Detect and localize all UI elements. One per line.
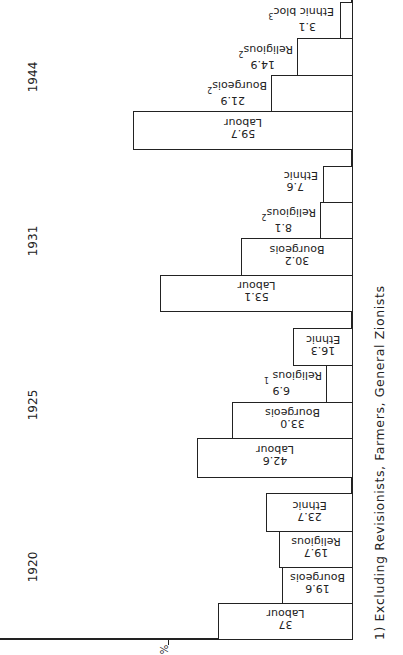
category-1931-labour: Labour bbox=[160, 280, 353, 291]
footnote: 1) Excluding Revisionists, Farmers, Gene… bbox=[372, 286, 387, 641]
bar-label-1925-bourgeois: 33.0 Bourgeois bbox=[232, 407, 353, 429]
category-1944-bourgeois: Bourgeois2 bbox=[185, 80, 267, 95]
bar-label-1920-ethnic: 23.7 Ethnic bbox=[266, 500, 353, 522]
bar-label-1920-religious: 19.7 Religious bbox=[279, 536, 353, 558]
bar-label-1931-labour: 53.1 Labour bbox=[160, 280, 353, 302]
percent-unit-label: % bbox=[159, 645, 170, 655]
year-label-1920: 1920 bbox=[26, 552, 40, 583]
value-axis bbox=[0, 638, 219, 640]
year-label-1944: 1944 bbox=[26, 62, 40, 93]
value-1944-bourgeois: 21.9 bbox=[185, 95, 267, 106]
bar-1931-ethnic bbox=[323, 166, 353, 203]
category-1944-religious: Religious2 bbox=[225, 44, 293, 59]
bar-label-1925-labour: 42.6 Labour bbox=[197, 444, 353, 466]
category-1925-ethnic: Ethnic bbox=[293, 334, 353, 345]
bar-1944-ethnic bbox=[340, 2, 353, 39]
category-1944-ethnic: Ethnic bloc3 bbox=[250, 6, 334, 21]
value-1944-labour: 59.7 bbox=[133, 128, 353, 139]
bar-label-1931-ethnic: 7.6 Ethnic bbox=[268, 170, 318, 192]
bar-label-1920-bourgeois: 19.6 Bourgeois bbox=[282, 572, 353, 594]
bar-label-1920-labour: 37 Labour bbox=[218, 608, 353, 630]
bar-label-1925-ethnic: 16.3 Ethnic bbox=[293, 334, 353, 356]
category-1931-ethnic: Ethnic bbox=[268, 170, 318, 181]
rotated-bar-chart: % 1944 1931 1925 1920 3.1 Ethnic bloc3 1… bbox=[0, 0, 403, 655]
value-1920-bourgeois: 19.6 bbox=[282, 583, 353, 594]
bar-label-1931-religious: 8.1 Religious2 bbox=[240, 207, 316, 233]
bar-label-1944-bourgeois: 21.9 Bourgeois2 bbox=[185, 80, 267, 106]
category-1925-religious: Religious 1 bbox=[240, 370, 322, 385]
category-1931-religious: Religious2 bbox=[240, 207, 316, 222]
bar-label-1931-bourgeois: 30.2 Bourgeois bbox=[241, 244, 353, 266]
category-1920-religious: Religious bbox=[279, 536, 353, 547]
value-1925-labour: 42.6 bbox=[197, 455, 353, 466]
bar-label-1925-religious: 6.9 Religious 1 bbox=[240, 370, 322, 396]
value-1944-religious: 14.9 bbox=[225, 59, 293, 70]
category-1931-bourgeois: Bourgeois bbox=[241, 244, 353, 255]
bar-1944-bourgeois bbox=[271, 75, 353, 112]
bar-label-1944-ethnic: 3.1 Ethnic bloc3 bbox=[250, 6, 334, 32]
value-1944-ethnic: 3.1 bbox=[250, 21, 334, 32]
category-1920-ethnic: Ethnic bbox=[266, 500, 353, 511]
category-1920-bourgeois: Bourgeois bbox=[282, 572, 353, 583]
bar-1944-religious bbox=[297, 38, 353, 76]
value-1925-religious: 6.9 bbox=[240, 385, 322, 396]
value-1931-labour: 53.1 bbox=[160, 291, 353, 302]
value-1931-ethnic: 7.6 bbox=[268, 181, 318, 192]
bar-label-1944-labour: 59.7 Labour bbox=[133, 117, 353, 139]
year-label-1931: 1931 bbox=[26, 226, 40, 257]
bar-1925-religious bbox=[326, 365, 353, 403]
category-1920-labour: Labour bbox=[218, 608, 353, 619]
category-1925-bourgeois: Bourgeois bbox=[232, 407, 353, 418]
bar-label-1944-religious: 14.9 Religious2 bbox=[225, 44, 293, 70]
value-1931-bourgeois: 30.2 bbox=[241, 255, 353, 266]
value-1925-ethnic: 16.3 bbox=[293, 345, 353, 356]
value-1920-ethnic: 23.7 bbox=[266, 511, 353, 522]
category-1925-labour: Labour bbox=[197, 444, 353, 455]
value-1920-religious: 19.7 bbox=[279, 547, 353, 558]
year-label-1925: 1925 bbox=[26, 390, 40, 421]
value-1925-bourgeois: 33.0 bbox=[232, 418, 353, 429]
category-1944-labour: Labour bbox=[133, 117, 353, 128]
value-1920-labour: 37 bbox=[218, 619, 353, 630]
bar-1931-religious bbox=[320, 202, 353, 239]
value-1931-religious: 8.1 bbox=[240, 222, 316, 233]
